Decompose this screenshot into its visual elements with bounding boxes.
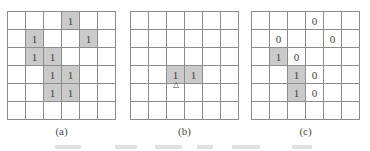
grid-cell (288, 30, 305, 47)
grid-cell: 1 (44, 66, 61, 83)
caption-fragment (292, 145, 312, 149)
grid-cell (252, 66, 269, 83)
grid-cell: 1 (288, 84, 305, 101)
grid-cell (26, 66, 43, 83)
grid-cell (98, 30, 115, 47)
grid-cell (131, 66, 148, 83)
caption-fragment (55, 145, 81, 149)
grid-cell (270, 102, 287, 119)
grid-cell (44, 12, 61, 29)
grid-cell (98, 102, 115, 119)
caption-fragment (155, 145, 182, 149)
grid-cell (270, 66, 287, 83)
grid-cell: 0 (306, 12, 323, 29)
grid-cell (80, 66, 97, 83)
grid-cell (167, 12, 184, 29)
panel-b-label: (b) (130, 125, 239, 137)
grid-cell (270, 84, 287, 101)
grid-b: 1△1 (130, 11, 239, 120)
grid-cell: 1 (44, 84, 61, 101)
grid-cell (252, 48, 269, 65)
grid-cell (44, 30, 61, 47)
panel-a-label: (a) (7, 125, 116, 137)
grid-cell (149, 30, 166, 47)
grid-cell: 1 (288, 66, 305, 83)
grid-cell: 1 (80, 30, 97, 47)
grid-cell (342, 66, 359, 83)
grid-cell (26, 102, 43, 119)
grid-cell (149, 12, 166, 29)
panel-c-label: (c) (251, 125, 360, 137)
grid-cell (98, 48, 115, 65)
grid-cell (26, 12, 43, 29)
grid-cell (185, 48, 202, 65)
grid-cell (342, 102, 359, 119)
grid-cell (8, 48, 25, 65)
grid-cell (221, 30, 238, 47)
grid-cell (185, 102, 202, 119)
grid-cell (221, 102, 238, 119)
grid-cell (8, 66, 25, 83)
grid-cell (98, 66, 115, 83)
grid-cell (324, 102, 341, 119)
grid-cell: 1 (62, 66, 79, 83)
grid-cell (131, 84, 148, 101)
grid-cell (203, 66, 220, 83)
grid-c: 000101010 (251, 11, 360, 120)
grid-cell (185, 12, 202, 29)
grid-cell (149, 102, 166, 119)
grid-cell (80, 102, 97, 119)
caption-fragment (197, 145, 213, 149)
grid-cell (252, 84, 269, 101)
grid-cell (203, 102, 220, 119)
grid-cell (44, 102, 61, 119)
panel-c: 000101010 (c) (251, 11, 360, 137)
grid-cell (324, 48, 341, 65)
grid-cell (62, 30, 79, 47)
grid-cell (324, 66, 341, 83)
grid-cell (149, 84, 166, 101)
grid-cell (167, 102, 184, 119)
grid-cell (131, 48, 148, 65)
grid-cell: 0 (306, 84, 323, 101)
grid-cell (149, 66, 166, 83)
grid-cell (203, 84, 220, 101)
grid-cell (167, 48, 184, 65)
grid-cell (167, 30, 184, 47)
grid-cell (306, 48, 323, 65)
grid-cell: 1 (26, 48, 43, 65)
grid-cell (342, 84, 359, 101)
grid-cell (203, 48, 220, 65)
grid-cell (203, 30, 220, 47)
caption-fragment (232, 145, 260, 149)
grid-cell (62, 102, 79, 119)
panel-a: 111111111 (a) (7, 11, 116, 137)
grid-cell: 1 (185, 66, 202, 83)
grid-cell (324, 12, 341, 29)
grid-a: 111111111 (7, 11, 116, 120)
grid-cell (252, 30, 269, 47)
figure-panels: 111111111 (a) 1△1 (b) 000101010 (c) (0, 0, 370, 137)
grid-cell: 0 (288, 48, 305, 65)
grid-cell (62, 48, 79, 65)
grid-cell (8, 84, 25, 101)
grid-cell (252, 12, 269, 29)
grid-cell (26, 84, 43, 101)
grid-cell (342, 12, 359, 29)
grid-cell (8, 102, 25, 119)
grid-cell: 0 (324, 30, 341, 47)
grid-cell (185, 30, 202, 47)
grid-cell (306, 102, 323, 119)
grid-cell (8, 12, 25, 29)
grid-cell (131, 102, 148, 119)
grid-cell: 1 (270, 48, 287, 65)
grid-cell (131, 30, 148, 47)
grid-cell (80, 84, 97, 101)
grid-cell (221, 84, 238, 101)
grid-cell (288, 102, 305, 119)
grid-cell: 1 (26, 30, 43, 47)
grid-cell (270, 12, 287, 29)
grid-cell (80, 48, 97, 65)
grid-cell (80, 12, 97, 29)
grid-cell (98, 84, 115, 101)
